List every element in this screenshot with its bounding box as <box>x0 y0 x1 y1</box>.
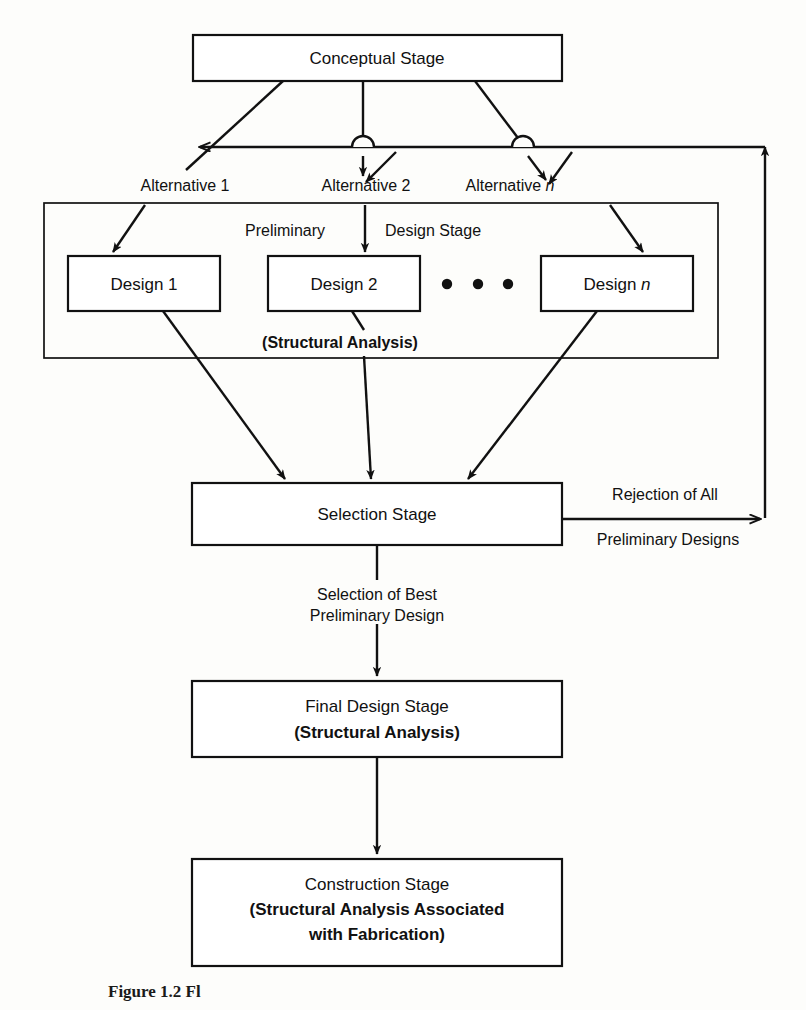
node-design-n-prefix: Design <box>583 275 641 294</box>
edge-label-rejection-line2: Preliminary Designs <box>597 531 739 548</box>
ellipsis-dot <box>473 279 483 289</box>
edge-label-selection-line1: Selection of Best <box>317 586 438 603</box>
figure-canvas: Conceptual Stage Alternat <box>0 0 806 1010</box>
node-construction-stage-label-line1: Construction Stage <box>305 875 450 894</box>
edge-alternative-1 <box>186 81 283 170</box>
edge-label-alternative-2: Alternative 2 <box>322 177 411 194</box>
edge-label-alternative-n-suffix: n <box>546 177 555 194</box>
group-preliminary-label-right: Design Stage <box>385 222 481 239</box>
edge-designn-to-selection <box>468 311 597 479</box>
ellipsis-designs <box>442 279 513 289</box>
node-design-2-label: Design 2 <box>310 275 377 294</box>
ellipsis-dot <box>442 279 452 289</box>
edge-label-selection-line2: Preliminary Design <box>310 607 444 624</box>
figure-caption: Figure 1.2 Fl <box>108 982 201 1002</box>
node-design-2: Design 2 <box>268 256 420 311</box>
node-final-design-stage-label-line1: Final Design Stage <box>305 697 449 716</box>
node-construction-stage-label-line3: with Fabrication) <box>308 925 445 944</box>
node-conceptual-stage-label: Conceptual Stage <box>309 49 444 68</box>
edge-label-alternative-n-prefix: Alternative <box>466 177 546 194</box>
node-design-n-label: Design n <box>583 275 650 294</box>
edge-label-alternative-1: Alternative 1 <box>141 177 230 194</box>
edge-alternative-2 <box>352 81 396 182</box>
node-design-n: Design n <box>541 256 693 311</box>
node-selection-stage-label: Selection Stage <box>317 505 436 524</box>
edge-altn-to-designn <box>610 205 643 252</box>
node-design-1-label: Design 1 <box>110 275 177 294</box>
edge-alternative-n <box>475 81 572 184</box>
edge-alt1-to-design1 <box>113 205 145 252</box>
flowchart-svg: Conceptual Stage Alternat <box>0 0 806 1010</box>
node-final-design-stage-label-line2: (Structural Analysis) <box>294 723 460 742</box>
edge-label-rejection-line1: Rejection of All <box>612 486 718 503</box>
ellipsis-dot <box>503 279 513 289</box>
node-construction-stage-label-line2: (Structural Analysis Associated <box>250 900 505 919</box>
group-preliminary-label-left: Preliminary <box>245 222 325 239</box>
node-final-design-stage: Final Design Stage (Structural Analysis) <box>192 681 562 757</box>
node-design-1: Design 1 <box>68 256 220 311</box>
node-selection-stage: Selection Stage <box>192 483 562 545</box>
node-design-n-suffix: n <box>641 275 650 294</box>
node-conceptual-stage: Conceptual Stage <box>193 35 562 81</box>
svg-text:Alternative n: Alternative n <box>466 177 555 194</box>
node-construction-stage: Construction Stage (Structural Analysis … <box>192 859 562 966</box>
edge-label-alternative-n: Alternative n <box>466 177 555 194</box>
group-preliminary-structural-analysis-note: (Structural Analysis) <box>262 334 418 351</box>
